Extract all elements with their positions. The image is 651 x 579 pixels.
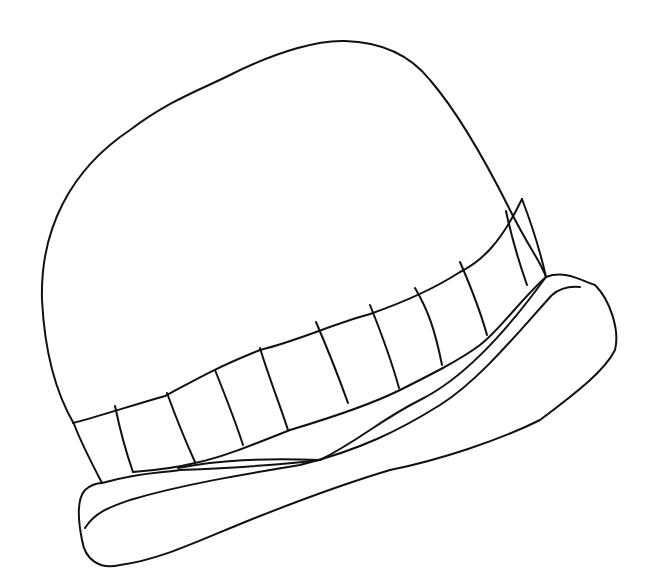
hatband-top	[73, 199, 522, 423]
hat-brim-inner	[85, 287, 580, 528]
hat-brim-outer	[79, 275, 617, 567]
hat-drawing	[0, 0, 651, 579]
coloring-page	[0, 0, 651, 579]
band-stripes	[115, 211, 527, 472]
